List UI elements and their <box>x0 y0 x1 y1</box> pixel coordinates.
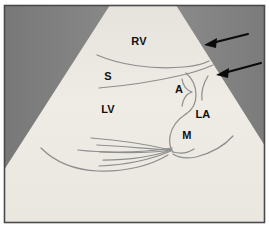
echo-figure-root: RV S LV A LA M <box>0 0 269 227</box>
label-m: M <box>182 129 191 141</box>
label-rv: RV <box>131 35 147 47</box>
label-s: S <box>104 70 112 82</box>
label-a: A <box>175 83 183 95</box>
label-la: LA <box>195 108 210 120</box>
label-lv: LV <box>101 103 115 115</box>
echo-sector-diagram: RV S LV A LA M <box>0 0 269 227</box>
